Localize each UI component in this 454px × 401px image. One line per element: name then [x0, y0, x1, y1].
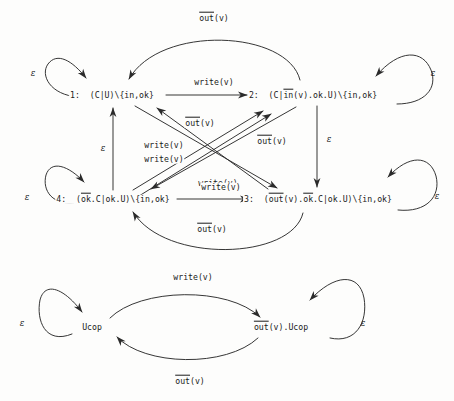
edge-label-n2-n4-diag: out(v) [256, 137, 288, 146]
edge-label-n1-n2: write(v) [193, 78, 234, 87]
self-loop-ucop [39, 289, 82, 337]
overline-out: out [185, 118, 200, 128]
eps-label-loop-out-ucop: ε [361, 319, 366, 328]
edge-label-n4-n3: write(v) [200, 183, 241, 192]
overline-out: out [197, 224, 212, 234]
overline-out: out [175, 376, 190, 386]
overline-out: out [257, 136, 272, 146]
self-loop-node3 [388, 160, 437, 210]
edge-label-n4-n2-diag-b: write(v) [143, 155, 184, 164]
edge-label-n3-n4-arc: out(v) [196, 225, 228, 234]
node-2-text: 2: (C|in(v).ok.U)\{in,ok} [249, 90, 377, 100]
eps-label-n4-n1: ε [101, 144, 106, 153]
node-1-label[interactable]: 1: (C|U)\{in,ok} [69, 91, 155, 100]
eps-label-n2-n3: ε [327, 135, 332, 144]
edge-label-n2-n1-arc: out(v) [198, 14, 230, 23]
eps-label-loop-n1: ε [31, 69, 36, 78]
node-2-label[interactable]: 2: (C|in(v).ok.U)\{in,ok} [248, 91, 378, 100]
diagram-canvas: 1: (C|U)\{in,ok} 2: (C|in(v).ok.U)\{in,o… [0, 0, 454, 401]
eps-label-loop-n3: ε [435, 192, 440, 201]
self-loop-node2 [376, 55, 433, 104]
eps-label-loop-ucop: ε [20, 319, 25, 328]
edge-outucop-ucop [117, 337, 258, 360]
self-loop-out-ucop [310, 279, 365, 339]
eps-label-loop-n2: ε [431, 69, 436, 78]
node-ucop-text: Ucop [82, 322, 102, 332]
edge-label-outucop-ucop: out(v) [174, 377, 206, 386]
node-4-label[interactable]: 4: (ok.C|ok.U)\{in,ok} [55, 195, 170, 204]
edge-label-n4-n2-diag-a: write(v) [143, 141, 184, 150]
edge-label-n3-n1-diag: out(v) [184, 119, 216, 128]
node-out-ucop-label[interactable]: out(v).Ucop [253, 323, 309, 332]
node-1-text: 1: (C|U)\{in,ok} [70, 90, 154, 100]
edge-ucop-outucop [110, 295, 260, 318]
node-3-label[interactable]: 3: (out(v).ok.C|ok.U)\{in,ok} [243, 195, 393, 204]
node-out-ucop-text: out(v).Ucop [254, 322, 308, 332]
edge-n2-n1-arc [129, 40, 300, 80]
eps-label-loop-n4: ε [25, 193, 30, 202]
node-4-text: 4: (ok.C|ok.U)\{in,ok} [56, 194, 169, 204]
overline-out: out [199, 13, 214, 23]
edge-label-ucop-outucop: write(v) [172, 273, 213, 282]
node-3-text: 3: (out(v).ok.C|ok.U)\{in,ok} [244, 194, 392, 204]
node-ucop-label[interactable]: Ucop [81, 323, 103, 332]
